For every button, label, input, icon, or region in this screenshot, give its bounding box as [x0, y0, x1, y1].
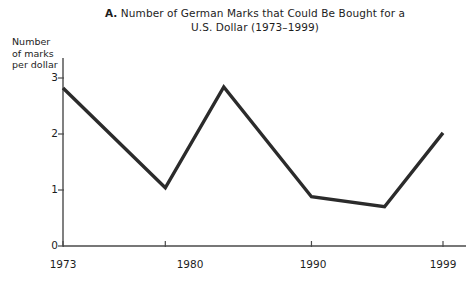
- chart-figure: A. Number of German Marks that Could Be …: [0, 0, 473, 287]
- axes: [58, 58, 466, 247]
- data-series-line: [63, 87, 443, 207]
- plot-area: [0, 0, 473, 287]
